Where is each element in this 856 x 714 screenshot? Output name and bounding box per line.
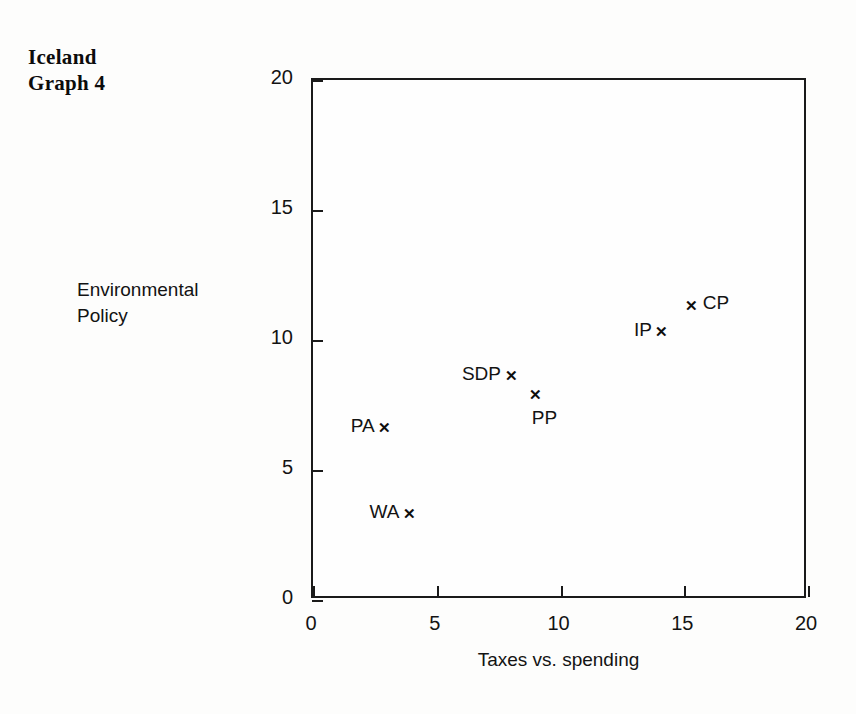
data-point-label: IP (634, 320, 652, 339)
x-axis-title: Taxes vs. spending (311, 649, 806, 671)
y-axis-tick (312, 470, 323, 472)
data-point-label: PA (351, 416, 375, 435)
y-axis-tick-label: 15 (241, 196, 293, 219)
data-point-marker: ✕ (655, 325, 669, 339)
chart-figure: Iceland Graph 4 EnvironmentalPolicy ✕WA✕… (0, 0, 856, 714)
y-axis-tick-label: 0 (241, 586, 293, 609)
y-axis-title-line: Environmental (77, 277, 198, 303)
y-axis-tick (312, 80, 323, 82)
x-axis-tick (561, 586, 563, 597)
data-point-marker: ✕ (504, 369, 518, 383)
chart-title-line-1: Iceland (28, 44, 105, 70)
y-axis-tick (312, 340, 323, 342)
x-axis-tick (684, 586, 686, 597)
y-axis-title-line: Policy (77, 303, 198, 329)
y-axis-tick-label: 5 (241, 456, 293, 479)
y-axis-tick (312, 210, 323, 212)
data-point-marker: ✕ (378, 421, 392, 435)
chart-title: Iceland Graph 4 (28, 44, 105, 96)
plot-area: ✕WA✕PA✕PP✕SDP✕IP✕CP (311, 78, 806, 598)
y-axis-tick (312, 600, 323, 602)
x-axis-tick (437, 586, 439, 597)
data-point-marker: ✕ (685, 299, 699, 313)
chart-title-line-2: Graph 4 (28, 70, 105, 96)
data-point-label: CP (703, 293, 729, 312)
y-axis-tick-label: 10 (241, 326, 293, 349)
data-point-label: SDP (462, 364, 501, 383)
data-point-marker: ✕ (529, 388, 543, 402)
x-axis-tick-label: 20 (776, 612, 836, 635)
y-axis-tick-label: 20 (241, 66, 293, 89)
x-axis-tick-label: 0 (281, 612, 341, 635)
data-point-marker: ✕ (403, 507, 417, 521)
x-axis-tick (808, 586, 810, 597)
data-point-label: PP (532, 408, 557, 427)
x-axis-tick-label: 10 (529, 612, 589, 635)
data-point-label: WA (370, 502, 400, 521)
y-axis-title: EnvironmentalPolicy (77, 277, 198, 329)
x-axis-tick-label: 15 (652, 612, 712, 635)
x-axis-tick (313, 586, 315, 597)
x-axis-tick-label: 5 (405, 612, 465, 635)
